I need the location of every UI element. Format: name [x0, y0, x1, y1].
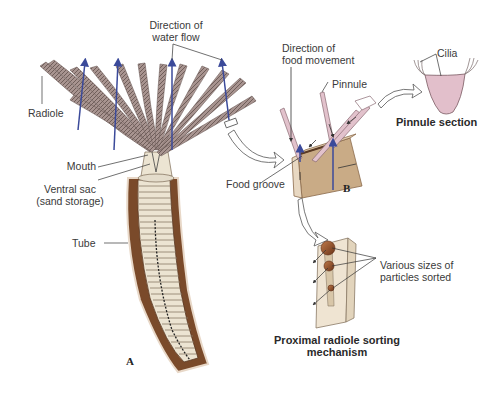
label-food-groove: Food groove	[226, 178, 285, 190]
label-line: particles sorted	[380, 271, 453, 283]
sorting-block	[316, 238, 356, 328]
zoom-arrow-to-pinnule-section	[378, 84, 422, 108]
pinnule-section-drawing	[414, 54, 478, 114]
pinnule-section-title: Pinnule section	[396, 116, 477, 128]
label-line: Direction of	[282, 42, 354, 54]
label-line: (sand storage)	[30, 195, 110, 207]
label-cilia: Cilia	[437, 47, 457, 59]
label-line: water flow	[143, 31, 209, 43]
label-ventral-sac: Ventral sac (sand storage)	[30, 183, 110, 207]
fan-worm-feeding-diagram: Direction of water flow Radiole Mouth Ve…	[0, 0, 497, 394]
title-line: mechanism	[272, 346, 402, 358]
label-tube: Tube	[72, 237, 96, 249]
label-line: Direction of	[143, 19, 209, 31]
label-pinnule: Pinnule	[332, 78, 367, 90]
label-mouth: Mouth	[56, 160, 96, 172]
collar	[138, 152, 174, 182]
title-line: Proximal radiole sorting	[272, 334, 402, 346]
label-line: Various sizes of	[380, 259, 453, 271]
label-direction-of-food-movement: Direction of food movement	[282, 42, 354, 66]
panel-a-id: A	[126, 355, 134, 367]
label-line: food movement	[282, 54, 354, 66]
tube	[127, 178, 208, 372]
zoom-arrow-to-sorting	[298, 198, 328, 246]
label-line: Ventral sac	[30, 183, 110, 195]
label-various-sizes-of-particles: Various sizes of particles sorted	[380, 259, 453, 283]
zoom-arrow-to-b	[224, 118, 284, 168]
label-direction-of-water-flow: Direction of water flow	[143, 19, 209, 43]
panel-b-id: B	[343, 182, 350, 194]
label-radiole: Radiole	[28, 107, 64, 119]
sorting-mechanism-title: Proximal radiole sorting mechanism	[272, 334, 402, 358]
